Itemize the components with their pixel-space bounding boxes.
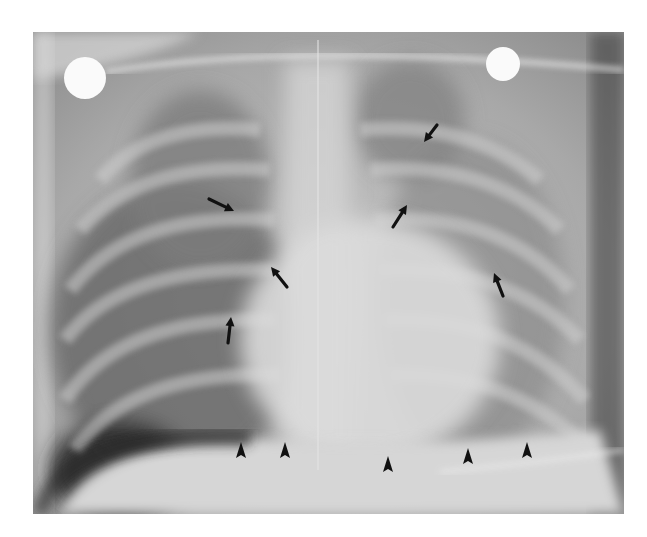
chest-xray-image [33,32,624,514]
electrode-right-icon [486,47,520,81]
electrode-left-icon [64,57,106,99]
xray-render [33,32,624,514]
